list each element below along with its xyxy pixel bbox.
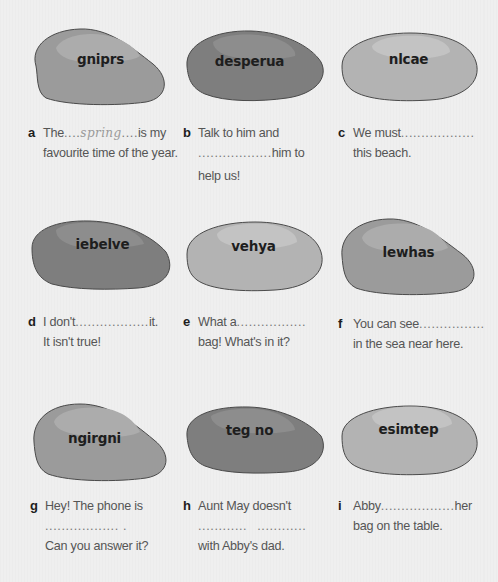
anagram-word: vehya (181, 238, 326, 254)
stone-a: gniprs (28, 26, 173, 106)
pebble-shape (338, 30, 483, 110)
answer-blank[interactable]: .................. . (45, 519, 127, 533)
sentence-c: cWe must.................. this beach. (338, 123, 474, 163)
answer-blank[interactable]: ................. (236, 315, 306, 329)
exercise-a: gniprs aThe....spring....is my favourite… (28, 26, 188, 106)
answer-blank[interactable]: .................. (198, 146, 272, 160)
item-letter: f (338, 314, 353, 334)
pebble-shape (183, 220, 328, 300)
sentence-a: aThe....spring....is my favourite time o… (28, 123, 178, 163)
pebble-shape (28, 218, 173, 298)
stone-h: teg no (183, 404, 328, 484)
exercise-e: vehya eWhat a................. bag! What… (183, 220, 343, 300)
item-letter: i (338, 496, 353, 516)
sentence-b: bTalk to him and ..................him t… (183, 123, 305, 186)
anagram-word: lewhas (336, 244, 481, 260)
exercise-c: nlcae cWe must.................. this be… (338, 30, 498, 110)
answer-blank[interactable]: .................. (75, 315, 149, 329)
sentence-h: hAunt May doesn't ......................… (183, 496, 306, 556)
item-letter: g (30, 496, 45, 516)
exercise-f: lewhas fYou can see................ in t… (338, 216, 498, 296)
item-letter: h (183, 496, 198, 516)
pebble-shape (183, 404, 328, 484)
sentence-i: iAbby..................her bag on the ta… (338, 496, 472, 536)
anagram-word: iebelve (30, 236, 175, 252)
answer-blank[interactable]: .................. (381, 499, 455, 513)
exercise-d: iebelve dI don't..................it. It… (28, 218, 188, 298)
item-letter: b (183, 123, 198, 143)
answer-field[interactable]: spring (80, 126, 121, 140)
item-letter: d (28, 312, 43, 332)
pebble-shape (338, 404, 483, 484)
stone-g: ngirgni (30, 402, 175, 482)
sentence-e: eWhat a................. bag! What's in … (183, 312, 306, 352)
item-letter: a (28, 123, 43, 143)
stone-f: lewhas (338, 216, 483, 296)
answer-blank-2[interactable]: ............ (257, 519, 306, 533)
anagram-word: ngirgni (22, 430, 167, 446)
stone-e: vehya (183, 220, 328, 300)
sentence-f: fYou can see................ in the sea … (338, 314, 485, 354)
stone-i: esimtep (338, 404, 483, 484)
exercise-h: teg no hAunt May doesn't ...............… (183, 404, 343, 484)
exercise-i: esimtep iAbby..................her bag o… (338, 404, 498, 484)
stone-b: desperua (183, 28, 328, 108)
sentence-d: dI don't..................it. It isn't t… (28, 312, 158, 352)
exercise-b: desperua bTalk to him and ..............… (183, 28, 343, 108)
answer-blank[interactable]: .................. (401, 126, 475, 140)
answer-blank[interactable]: ................ (419, 317, 485, 331)
anagram-word: teg no (177, 422, 322, 438)
anagram-word: nlcae (336, 51, 481, 67)
answer-blank-1[interactable]: ............ (198, 519, 247, 533)
stone-c: nlcae (338, 30, 483, 110)
stone-d: iebelve (28, 218, 173, 298)
anagram-word: esimtep (336, 421, 481, 437)
exercise-g: ngirgni gHey! The phone is .............… (30, 402, 190, 482)
item-letter: e (183, 312, 198, 332)
sentence-g: gHey! The phone is .................. . … (30, 496, 148, 556)
anagram-word: desperua (177, 53, 322, 69)
anagram-word: gniprs (28, 51, 173, 67)
item-letter: c (338, 123, 353, 143)
